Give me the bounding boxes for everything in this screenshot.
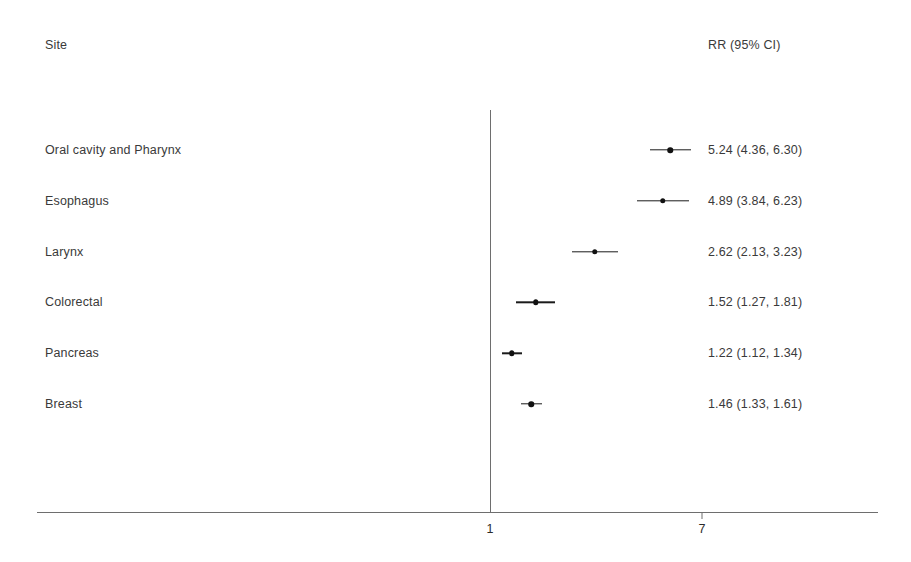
row-value-rr-ci: 4.89 (3.84, 6.23) [708,194,802,208]
point-estimate-marker [533,300,539,306]
row-label-site: Larynx [45,245,83,259]
x-axis-tick-label: 7 [699,522,706,536]
row-label-site: Pancreas [45,346,99,360]
reference-line-at-1 [490,110,491,512]
point-estimate-marker [509,350,515,356]
x-axis-line [37,512,878,513]
column-header-rr: RR (95% CI) [708,38,781,52]
row-value-rr-ci: 1.46 (1.33, 1.61) [708,397,802,411]
x-axis-tick-label: 1 [487,522,494,536]
point-estimate-marker [668,147,674,153]
row-label-site: Oral cavity and Pharynx [45,143,181,157]
point-estimate-marker [660,198,666,204]
row-value-rr-ci: 1.22 (1.12, 1.34) [708,346,802,360]
row-label-site: Colorectal [45,295,103,309]
column-header-site: Site [45,38,67,52]
row-value-rr-ci: 5.24 (4.36, 6.30) [708,143,802,157]
x-axis-tick-mark [702,512,703,519]
row-value-rr-ci: 2.62 (2.13, 3.23) [708,245,802,259]
point-estimate-marker [528,401,534,407]
point-estimate-marker [592,249,598,255]
row-value-rr-ci: 1.52 (1.27, 1.81) [708,295,802,309]
forest-plot: Site RR (95% CI) Oral cavity and Pharynx… [0,0,911,562]
row-label-site: Esophagus [45,194,109,208]
row-label-site: Breast [45,397,82,411]
